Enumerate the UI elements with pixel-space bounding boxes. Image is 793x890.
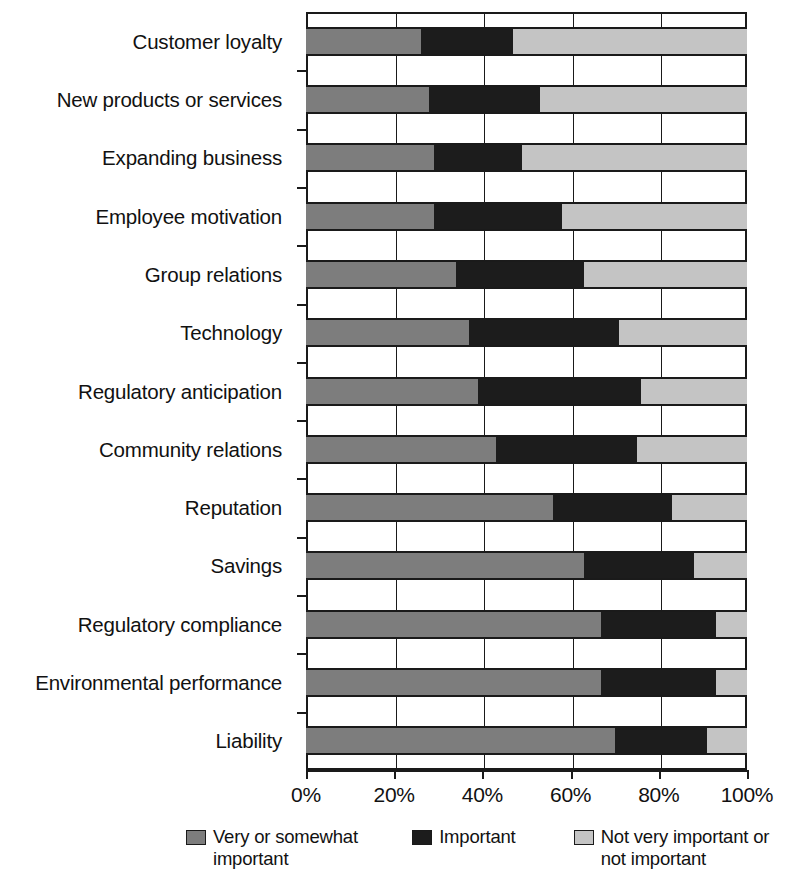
bar-segment	[707, 728, 747, 753]
y-axis-tick	[297, 595, 306, 597]
y-axis-label: Savings	[0, 551, 282, 580]
y-axis-tick	[297, 187, 306, 189]
y-axis-label: Customer loyalty	[0, 27, 282, 56]
bar-segment	[306, 670, 601, 695]
bar-segment	[694, 553, 747, 578]
bar-row	[306, 610, 747, 639]
bar-segment	[562, 204, 747, 229]
bar-row	[306, 668, 747, 697]
x-axis-tick	[306, 770, 308, 779]
bar-segment	[306, 145, 434, 170]
bar-row	[306, 318, 747, 347]
y-axis-label: Regulatory anticipation	[0, 377, 282, 406]
bar-row	[306, 85, 747, 114]
y-axis-label: Reputation	[0, 493, 282, 522]
x-axis-tick-label: 100%	[707, 782, 787, 808]
bar-segment	[306, 612, 601, 637]
x-axis-tick-label: 20%	[354, 782, 434, 808]
y-axis-tick	[297, 362, 306, 364]
y-axis-label: Environmental performance	[0, 668, 282, 697]
bar-segment	[306, 728, 615, 753]
bar-segment	[429, 87, 539, 112]
x-axis-tick	[659, 770, 661, 779]
bars-layer	[306, 12, 747, 770]
bar-segment	[434, 145, 522, 170]
bar-row	[306, 260, 747, 289]
legend-item: Very or somewhat important	[186, 826, 412, 870]
bar-segment	[672, 495, 747, 520]
bar-row	[306, 27, 747, 56]
legend-label: Not very important or not important	[601, 826, 786, 870]
y-axis-tick	[297, 129, 306, 131]
x-axis-tick	[747, 770, 749, 779]
bar-segment	[716, 670, 747, 695]
x-axis-tick	[394, 770, 396, 779]
bar-segment	[584, 262, 747, 287]
legend-item: Important	[412, 826, 574, 848]
y-axis-tick	[297, 537, 306, 539]
bar-segment	[619, 320, 747, 345]
bar-segment	[716, 612, 747, 637]
bar-segment	[469, 320, 619, 345]
x-axis-tick-label: 40%	[442, 782, 522, 808]
bar-row	[306, 143, 747, 172]
bar-segment	[434, 204, 562, 229]
y-axis-category-labels: Customer loyaltyNew products or services…	[0, 12, 296, 770]
bar-segment	[306, 495, 553, 520]
bar-segment	[306, 204, 434, 229]
y-axis-tick	[297, 245, 306, 247]
bar-segment	[513, 29, 747, 54]
bar-segment	[306, 262, 456, 287]
x-axis-tick-label: 0%	[266, 782, 346, 808]
bar-row	[306, 377, 747, 406]
legend-swatch-icon	[186, 830, 206, 845]
y-axis-tick	[297, 712, 306, 714]
y-axis-tick	[297, 304, 306, 306]
bar-segment	[421, 29, 514, 54]
bar-row	[306, 726, 747, 755]
y-axis-tick	[297, 478, 306, 480]
bar-segment	[478, 379, 641, 404]
y-axis-tick	[297, 420, 306, 422]
bar-segment	[641, 379, 747, 404]
chart-legend: Very or somewhat importantImportantNot v…	[186, 826, 786, 870]
bar-segment	[306, 320, 469, 345]
y-axis-tick	[297, 653, 306, 655]
y-axis-label: Technology	[0, 318, 282, 347]
bar-segment	[540, 87, 747, 112]
legend-swatch-icon	[412, 830, 432, 845]
bar-segment	[615, 728, 708, 753]
y-axis-label: New products or services	[0, 85, 282, 114]
bar-segment	[306, 87, 429, 112]
bar-row	[306, 202, 747, 231]
x-axis-tick	[571, 770, 573, 779]
y-axis-label: Liability	[0, 726, 282, 755]
bar-segment	[584, 553, 694, 578]
bar-row	[306, 551, 747, 580]
y-axis-label: Regulatory compliance	[0, 610, 282, 639]
bar-row	[306, 435, 747, 464]
legend-swatch-icon	[574, 830, 594, 845]
x-axis-tick	[482, 770, 484, 779]
legend-label: Important	[439, 826, 515, 848]
x-axis-tick-label: 60%	[531, 782, 611, 808]
x-axis-line	[306, 770, 747, 772]
bar-segment	[601, 612, 716, 637]
y-axis-label: Group relations	[0, 260, 282, 289]
y-axis-label: Community relations	[0, 435, 282, 464]
legend-label: Very or somewhat important	[213, 826, 412, 870]
bar-segment	[637, 437, 747, 462]
bar-segment	[456, 262, 584, 287]
bar-segment	[306, 379, 478, 404]
bar-segment	[306, 29, 421, 54]
bar-segment	[553, 495, 672, 520]
y-axis-label: Expanding business	[0, 143, 282, 172]
legend-item: Not very important or not important	[574, 826, 786, 870]
bar-segment	[522, 145, 747, 170]
bar-segment	[306, 553, 584, 578]
bar-segment	[306, 437, 496, 462]
stacked-bar-chart: Customer loyaltyNew products or services…	[0, 0, 793, 890]
y-axis-tick	[297, 70, 306, 72]
bar-segment	[496, 437, 637, 462]
y-axis-label: Employee motivation	[0, 202, 282, 231]
